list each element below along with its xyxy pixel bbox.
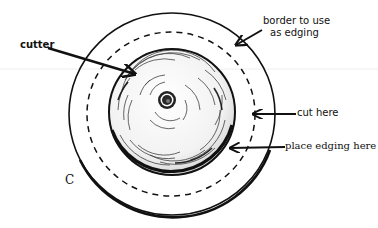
border-label-line2: as edging	[270, 27, 319, 39]
border-label-line1: border to use	[263, 15, 330, 27]
hub	[158, 91, 176, 109]
figure-letter: C	[65, 174, 74, 186]
place-edging-arrow	[230, 147, 285, 148]
edging-diagram: cutter border to use as edging cut here …	[0, 0, 378, 228]
cutter-disc	[109, 49, 235, 175]
cutter-label: cutter	[20, 39, 54, 51]
place-edging-label: place edging here	[285, 140, 376, 152]
cut-here-label: cut here	[297, 107, 338, 119]
